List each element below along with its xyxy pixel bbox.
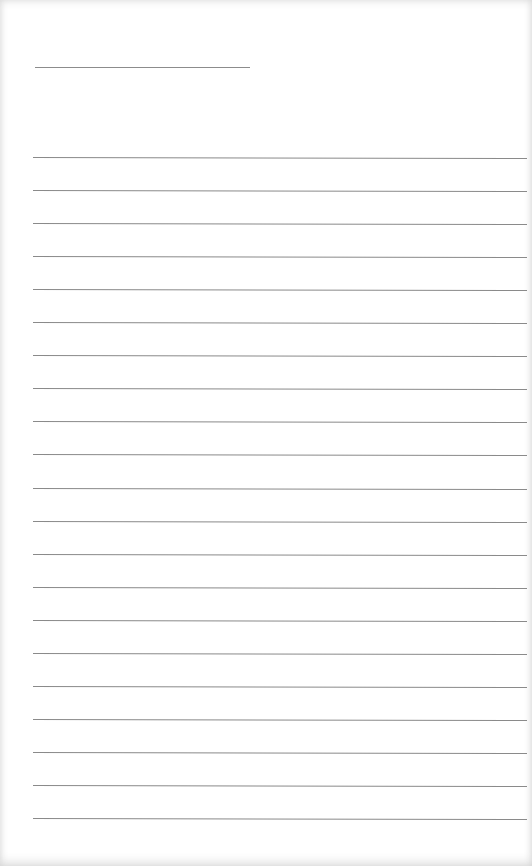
- lined-paper-page: [0, 0, 532, 866]
- ruled-line: [33, 818, 527, 820]
- ruled-line: [33, 322, 527, 324]
- ruled-line: [33, 256, 527, 258]
- ruled-line: [33, 686, 527, 688]
- ruled-line: [33, 421, 527, 423]
- ruled-line: [33, 653, 527, 655]
- ruled-line: [33, 719, 527, 721]
- ruled-line: [33, 752, 527, 754]
- ruled-line: [33, 785, 527, 787]
- ruled-line: [33, 289, 527, 291]
- ruled-line: [33, 223, 527, 225]
- ruled-line: [33, 554, 527, 556]
- ruled-line: [33, 587, 527, 589]
- ruled-line: [33, 454, 527, 456]
- ruled-line: [33, 190, 527, 192]
- ruled-line: [33, 521, 527, 523]
- ruled-line: [33, 488, 527, 490]
- ruled-line: [33, 355, 527, 357]
- ruled-line: [33, 157, 527, 159]
- ruled-line: [33, 388, 527, 390]
- ruled-line: [33, 620, 527, 622]
- title-underline: [35, 67, 250, 68]
